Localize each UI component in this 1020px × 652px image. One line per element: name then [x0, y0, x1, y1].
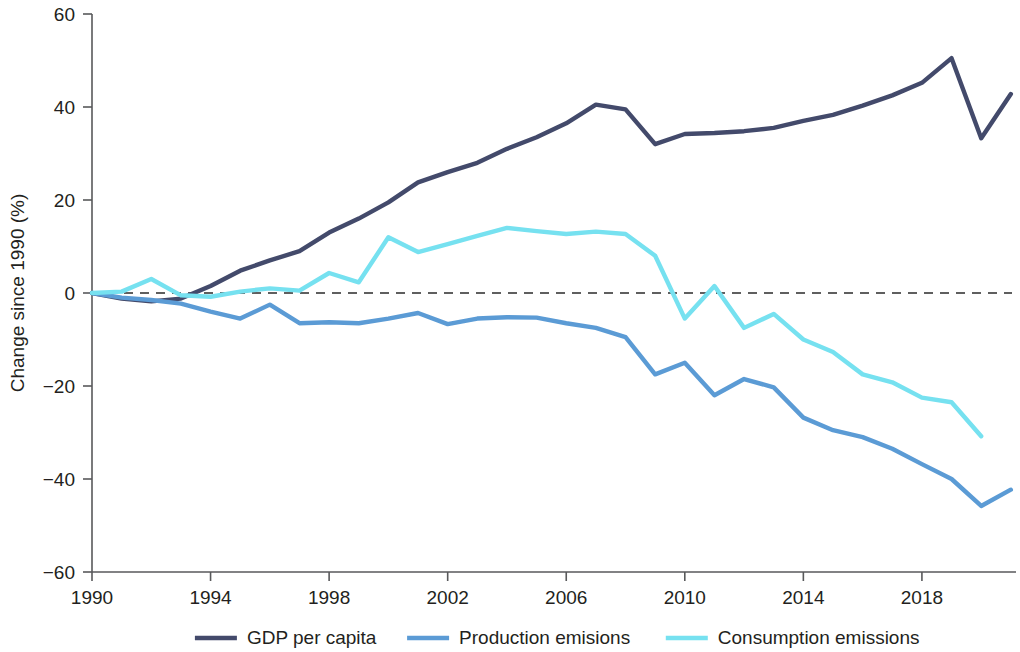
y-tick-label: −40 [43, 469, 75, 490]
line-chart: 6040200−20−40−60 19901994199820022006201… [0, 0, 1020, 652]
legend-item-label: Consumption emissions [718, 627, 920, 648]
x-tick-label: 2014 [782, 587, 825, 608]
chart-page: 6040200−20−40−60 19901994199820022006201… [0, 0, 1020, 652]
x-tick-label: 1998 [308, 587, 350, 608]
legend-item-label: Production emisions [459, 627, 630, 648]
y-tick-label: 60 [54, 4, 75, 25]
x-tick-label: 2010 [664, 587, 706, 608]
series-line [92, 58, 1011, 301]
x-tick-label: 2018 [901, 587, 943, 608]
y-tick-label: 40 [54, 97, 75, 118]
x-tick-group: 19901994199820022006201020142018 [71, 572, 943, 608]
y-tick-group: 6040200−20−40−60 [43, 4, 92, 583]
x-tick-label: 1990 [71, 587, 113, 608]
x-tick-label: 2002 [427, 587, 469, 608]
series-line [92, 228, 981, 436]
legend-item-label: GDP per capita [247, 627, 377, 648]
y-tick-label: 0 [64, 283, 75, 304]
series-group [92, 58, 1011, 506]
y-axis-title: Change since 1990 (%) [7, 194, 28, 393]
chart-legend: GDP per capitaProduction emisionsConsump… [195, 627, 920, 648]
y-tick-label: −20 [43, 376, 75, 397]
y-tick-label: −60 [43, 562, 75, 583]
x-tick-label: 2006 [545, 587, 587, 608]
y-tick-label: 20 [54, 190, 75, 211]
x-tick-label: 1994 [189, 587, 232, 608]
series-line [92, 293, 1011, 506]
